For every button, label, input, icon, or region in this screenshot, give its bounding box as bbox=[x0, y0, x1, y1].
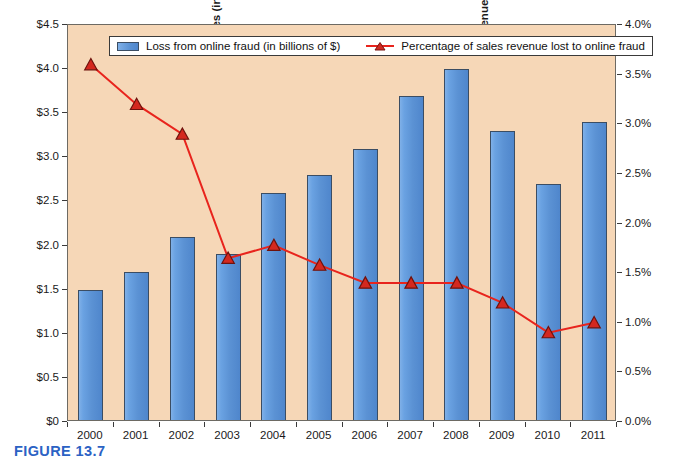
x-tick-label-2004: 2004 bbox=[260, 429, 286, 441]
right-tick-label-8: 4.0% bbox=[625, 18, 671, 30]
x-tick-mark-12 bbox=[616, 422, 617, 427]
x-tick-label-2010: 2010 bbox=[535, 429, 561, 441]
line-marker-2009 bbox=[496, 297, 508, 308]
right-tick-label-5: 2.5% bbox=[625, 167, 671, 179]
left-tick-label-4: $2.0 bbox=[19, 239, 59, 251]
right-tick-mark-7 bbox=[617, 74, 622, 75]
x-tick-mark-2 bbox=[159, 422, 160, 427]
x-tick-mark-5 bbox=[296, 422, 297, 427]
legend-label-bar: Loss from online fraud (in billions of $… bbox=[146, 40, 340, 52]
right-tick-mark-2 bbox=[617, 322, 622, 323]
x-tick-mark-8 bbox=[433, 422, 434, 427]
left-tick-label-2: $1.0 bbox=[19, 327, 59, 339]
legend-entry-bar: Loss from online fraud (in billions of $… bbox=[117, 40, 340, 52]
plot-area bbox=[67, 24, 616, 421]
x-tick-label-2007: 2007 bbox=[397, 429, 423, 441]
figure-caption: FIGURE 13.7 bbox=[14, 443, 105, 459]
x-tick-label-2003: 2003 bbox=[214, 429, 240, 441]
x-tick-mark-0 bbox=[67, 422, 68, 427]
x-tick-mark-1 bbox=[113, 422, 114, 427]
left-tick-label-1: $0.5 bbox=[19, 371, 59, 383]
line-marker-2002 bbox=[176, 128, 188, 139]
left-tick-label-7: $3.5 bbox=[19, 106, 59, 118]
x-tick-mark-9 bbox=[479, 422, 480, 427]
right-tick-mark-6 bbox=[617, 123, 622, 124]
x-tick-label-2002: 2002 bbox=[169, 429, 195, 441]
x-tick-mark-7 bbox=[387, 422, 388, 427]
legend-line-swatch-icon bbox=[366, 40, 394, 52]
x-tick-mark-4 bbox=[250, 422, 251, 427]
left-tick-label-0: $0 bbox=[19, 415, 59, 427]
x-tick-label-2011: 2011 bbox=[581, 429, 606, 441]
x-tick-mark-3 bbox=[204, 422, 205, 427]
right-tick-mark-3 bbox=[617, 272, 622, 273]
legend-entry-line: Percentage of sales revenue lost to onli… bbox=[366, 40, 645, 52]
right-tick-label-1: 0.5% bbox=[625, 365, 671, 377]
left-tick-label-6: $3.0 bbox=[19, 150, 59, 162]
x-tick-label-2009: 2009 bbox=[489, 429, 515, 441]
x-tick-mark-6 bbox=[342, 422, 343, 427]
figure-container: Online fraud losses (in billions of $) P… bbox=[0, 0, 698, 467]
right-tick-label-7: 3.5% bbox=[625, 68, 671, 80]
right-tick-mark-8 bbox=[617, 24, 622, 25]
line-marker-2011 bbox=[588, 317, 600, 328]
legend-bar-swatch-icon bbox=[117, 42, 139, 51]
left-tick-label-3: $1.5 bbox=[19, 283, 59, 295]
right-tick-label-4: 2.0% bbox=[625, 217, 671, 229]
right-tick-mark-5 bbox=[617, 173, 622, 174]
right-tick-label-2: 1.0% bbox=[625, 316, 671, 328]
legend-label-line: Percentage of sales revenue lost to onli… bbox=[401, 40, 645, 52]
right-tick-mark-0 bbox=[617, 421, 622, 422]
left-tick-label-8: $4.0 bbox=[19, 62, 59, 74]
x-tick-label-2008: 2008 bbox=[443, 429, 469, 441]
line-series-layer bbox=[68, 25, 615, 420]
right-tick-mark-4 bbox=[617, 223, 622, 224]
left-tick-label-9: $4.5 bbox=[19, 18, 59, 30]
chart-legend: Loss from online fraud (in billions of $… bbox=[109, 36, 653, 56]
right-tick-label-0: 0.0% bbox=[625, 415, 671, 427]
x-tick-label-2006: 2006 bbox=[352, 429, 378, 441]
percentage-line-path bbox=[91, 65, 594, 333]
x-tick-mark-10 bbox=[525, 422, 526, 427]
right-tick-label-6: 3.0% bbox=[625, 117, 671, 129]
x-tick-label-2005: 2005 bbox=[306, 429, 332, 441]
line-marker-2000 bbox=[85, 59, 97, 70]
right-tick-label-3: 1.5% bbox=[625, 266, 671, 278]
line-marker-2004 bbox=[268, 239, 280, 250]
right-tick-mark-1 bbox=[617, 371, 622, 372]
left-tick-label-5: $2.5 bbox=[19, 194, 59, 206]
x-tick-mark-11 bbox=[570, 422, 571, 427]
line-marker-2005 bbox=[313, 259, 325, 270]
x-tick-label-2000: 2000 bbox=[77, 429, 103, 441]
x-tick-label-2001: 2001 bbox=[123, 429, 149, 441]
